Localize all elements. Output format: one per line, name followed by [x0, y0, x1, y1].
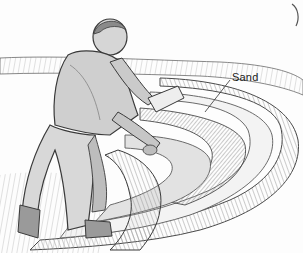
partial-object-corner	[292, 4, 298, 26]
sand-label: Sand	[232, 71, 259, 83]
smoothing-board	[148, 86, 184, 112]
pencil-drawing	[0, 0, 303, 253]
boy-shoe-left	[18, 205, 40, 238]
boy-hand	[143, 145, 157, 155]
sketch-illustration: Sand	[0, 0, 303, 253]
boy-shoe-right	[85, 220, 112, 238]
